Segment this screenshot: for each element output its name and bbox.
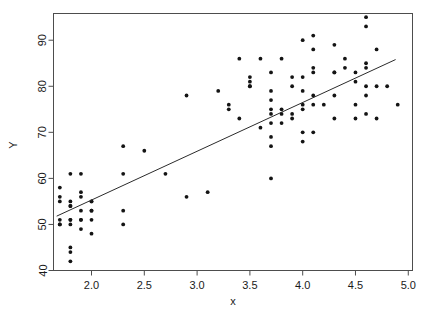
data-point	[58, 223, 62, 227]
y-tick-label: 50	[37, 218, 49, 230]
data-point	[68, 172, 72, 176]
data-point	[237, 57, 241, 61]
data-point	[375, 84, 379, 88]
figure-background	[0, 0, 435, 319]
data-point	[396, 103, 400, 107]
y-tick-label: 60	[37, 172, 49, 184]
data-point	[185, 195, 189, 199]
y-tick-label: 80	[37, 80, 49, 92]
data-point	[269, 121, 273, 125]
x-axis-title: x	[230, 295, 236, 307]
data-point	[58, 200, 62, 204]
data-point	[68, 200, 72, 204]
data-point	[354, 103, 358, 107]
data-point	[280, 107, 284, 111]
data-point	[248, 75, 252, 79]
x-tick-label: 4.0	[295, 279, 310, 291]
data-point	[311, 103, 315, 107]
data-point	[269, 176, 273, 180]
data-point	[142, 149, 146, 153]
data-point	[332, 43, 336, 47]
data-point	[248, 84, 252, 88]
data-point	[290, 112, 294, 116]
data-point	[364, 94, 368, 98]
data-point	[68, 223, 72, 227]
data-point	[301, 140, 305, 144]
data-point	[216, 89, 220, 93]
data-point	[121, 209, 125, 213]
x-tick-label: 2.5	[137, 279, 152, 291]
data-point	[375, 117, 379, 121]
data-point	[364, 66, 368, 70]
data-point	[343, 66, 347, 70]
data-point	[121, 223, 125, 227]
data-point	[311, 34, 315, 38]
y-tick-label: 40	[37, 264, 49, 276]
data-point	[301, 75, 305, 79]
data-point	[58, 218, 62, 222]
data-point	[290, 75, 294, 79]
data-point	[364, 61, 368, 65]
data-point	[79, 209, 83, 213]
data-point	[280, 57, 284, 61]
data-point	[332, 117, 336, 121]
data-point	[343, 57, 347, 61]
data-point	[58, 195, 62, 199]
data-point	[68, 246, 72, 250]
y-tick-label: 70	[37, 126, 49, 138]
data-point	[311, 48, 315, 52]
x-tick-label: 4.5	[348, 279, 363, 291]
data-point	[68, 204, 72, 208]
data-point	[90, 232, 94, 236]
data-point	[79, 227, 83, 231]
data-point	[206, 190, 210, 194]
data-point	[269, 112, 273, 116]
data-point	[259, 57, 263, 61]
data-point	[269, 71, 273, 75]
data-point	[332, 71, 336, 75]
data-point	[259, 126, 263, 130]
chart-canvas: 405060708090 2.02.53.03.54.04.55.0 x Y	[0, 0, 435, 319]
data-point	[90, 218, 94, 222]
data-point	[269, 98, 273, 102]
data-point	[79, 172, 83, 176]
data-point	[311, 71, 315, 75]
data-point	[364, 15, 368, 19]
data-point	[185, 94, 189, 98]
data-point	[68, 259, 72, 263]
x-tick-label: 5.0	[401, 279, 416, 291]
data-point	[68, 218, 72, 222]
data-point	[354, 117, 358, 121]
data-point	[311, 66, 315, 70]
data-point	[375, 48, 379, 52]
data-point	[301, 38, 305, 42]
data-point	[385, 84, 389, 88]
data-point	[58, 186, 62, 190]
data-point	[354, 80, 358, 84]
data-point	[332, 94, 336, 98]
data-point	[322, 103, 326, 107]
data-point	[237, 117, 241, 121]
x-tick-label: 2.0	[84, 279, 99, 291]
data-point	[79, 195, 83, 199]
scatter-plot-figure: 405060708090 2.02.53.03.54.04.55.0 x Y	[0, 0, 435, 319]
data-point	[269, 135, 273, 139]
data-point	[290, 117, 294, 121]
data-point	[79, 218, 83, 222]
data-point	[227, 103, 231, 107]
x-tick-label: 3.5	[242, 279, 257, 291]
data-point	[164, 172, 168, 176]
data-point	[68, 250, 72, 254]
x-tick-label: 3.0	[189, 279, 204, 291]
data-point	[364, 112, 368, 116]
data-point	[311, 130, 315, 134]
data-point	[280, 121, 284, 125]
data-point	[301, 130, 305, 134]
data-point	[121, 172, 125, 176]
data-point	[301, 89, 305, 93]
data-point	[269, 89, 273, 93]
data-point	[121, 144, 125, 148]
data-point	[269, 144, 273, 148]
data-point	[354, 71, 358, 75]
data-point	[90, 209, 94, 213]
